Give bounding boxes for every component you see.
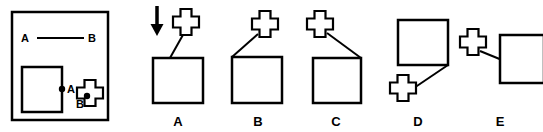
down-arrow-indicator xyxy=(151,6,164,36)
connector-line xyxy=(480,51,502,60)
option-square xyxy=(500,35,543,83)
option-square xyxy=(398,20,448,65)
relation-label-b: B xyxy=(88,32,96,44)
figure-canvas: ABAB ABCDE xyxy=(0,0,543,132)
option-label-c: C xyxy=(331,114,341,129)
option-b[interactable]: B xyxy=(232,11,282,129)
option-label-d: D xyxy=(413,114,422,129)
point-a-label: A xyxy=(67,83,75,95)
option-label-a: A xyxy=(173,114,183,129)
arrow-shaft xyxy=(155,6,159,24)
option-label-e: E xyxy=(496,114,505,129)
option-a[interactable]: A xyxy=(151,6,204,129)
option-square xyxy=(313,58,361,103)
point-b-label: B xyxy=(76,98,84,110)
option-cross xyxy=(390,75,416,101)
relation-label-a: A xyxy=(21,32,29,44)
connector-line xyxy=(327,33,361,58)
connector-line xyxy=(232,34,258,57)
option-label-b: B xyxy=(253,114,262,129)
reference-panel: ABAB xyxy=(12,12,108,120)
option-cross xyxy=(307,11,333,37)
options-row: ABCDE xyxy=(151,6,543,129)
reference-square xyxy=(22,67,62,112)
option-c[interactable]: C xyxy=(307,11,361,129)
spatial-reasoning-figure: ABAB ABCDE xyxy=(0,0,543,132)
connector-line xyxy=(170,33,184,58)
option-cross xyxy=(173,9,199,35)
point-a-marker xyxy=(59,86,65,92)
option-square xyxy=(153,58,203,103)
option-square xyxy=(232,57,282,103)
option-d[interactable]: D xyxy=(390,20,448,129)
option-cross xyxy=(252,11,278,37)
option-e[interactable]: E xyxy=(460,29,543,129)
arrow-head xyxy=(151,24,164,36)
point-b-marker xyxy=(84,93,90,99)
